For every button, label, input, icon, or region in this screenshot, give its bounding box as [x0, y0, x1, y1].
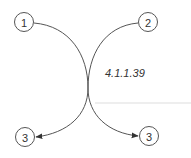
enzyme-ec-label[interactable]: 4.1.1.39 — [105, 67, 145, 79]
reaction-diagram: 1 2 3 3 4.1.1.39 — [0, 0, 191, 158]
node-3-right[interactable]: 3 — [140, 127, 159, 146]
edge-1-to-3 — [34, 23, 138, 136]
edge-2-to-3 — [36, 23, 138, 137]
node-3-right-label: 3 — [146, 131, 152, 143]
node-1[interactable]: 1 — [15, 13, 34, 32]
node-2-label: 2 — [145, 17, 151, 29]
node-1-label: 1 — [21, 17, 27, 29]
node-3-left[interactable]: 3 — [16, 128, 35, 147]
node-3-left-label: 3 — [22, 132, 28, 144]
node-2[interactable]: 2 — [139, 13, 158, 32]
